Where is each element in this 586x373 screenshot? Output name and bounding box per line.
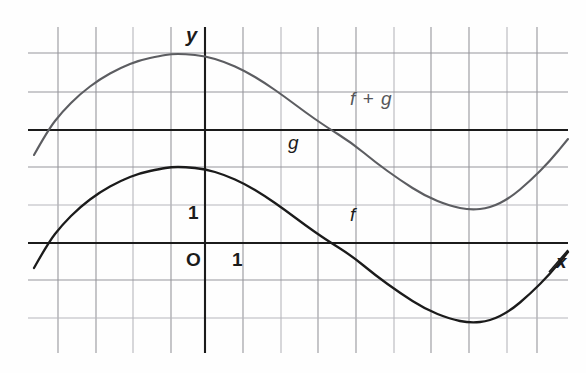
curve-label-f: f — [350, 204, 355, 226]
grid-lines-vertical — [58, 27, 537, 353]
curve-f-plus-g — [34, 54, 568, 209]
y-axis-label: y — [186, 24, 197, 47]
curve-f — [34, 167, 568, 322]
grid-lines-horizontal — [28, 53, 568, 318]
graph-figure: y x O 1 1 g f f + g — [0, 0, 586, 373]
curve-label-f-plus-g: f + g — [350, 88, 393, 110]
unit-label-x: 1 — [232, 249, 243, 271]
x-axis-label: x — [556, 251, 567, 273]
plot-canvas — [0, 0, 586, 373]
curve-label-g: g — [288, 132, 299, 154]
unit-label-y: 1 — [188, 202, 199, 224]
origin-label: O — [186, 249, 201, 271]
